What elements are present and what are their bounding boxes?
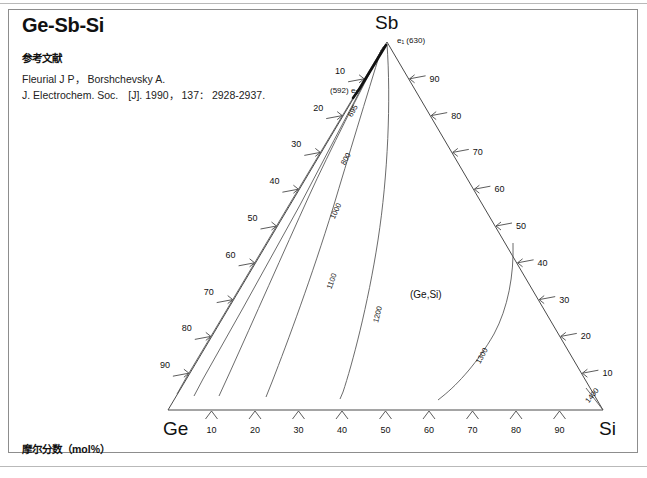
tick-marks <box>173 75 599 419</box>
tick-label-left: 10 <box>335 66 345 76</box>
boundary-curve-e1-e2 <box>353 45 386 98</box>
tick-label-bottom: 40 <box>337 425 347 435</box>
tick-mark-right <box>561 332 577 340</box>
tick-label-right: 20 <box>581 331 591 341</box>
tick-mark-left <box>195 332 211 340</box>
tick-mark-right <box>474 185 490 193</box>
tick-mark-left <box>239 259 255 267</box>
isotherm-1100 <box>266 50 381 397</box>
tick-label-left: 90 <box>160 360 170 370</box>
tick-mark-bottom <box>467 411 479 419</box>
tick-label-left: 60 <box>226 250 236 260</box>
edge-sb-si <box>387 42 603 410</box>
isotherm-label-1100: 1100 <box>325 272 339 290</box>
isotherm-800 <box>194 47 383 396</box>
tick-label-right: 30 <box>559 295 569 305</box>
tick-mark-right <box>496 222 512 230</box>
tick-label-left: 40 <box>269 176 279 186</box>
tick-mark-left <box>261 222 277 230</box>
isotherm-curves <box>177 44 603 410</box>
tick-mark-bottom <box>380 411 392 419</box>
tick-mark-right <box>582 369 598 377</box>
triangle-edges <box>168 42 603 410</box>
tick-label-left: 70 <box>204 287 214 297</box>
tick-label-bottom: 80 <box>511 425 521 435</box>
tick-mark-right <box>453 148 469 156</box>
tick-mark-bottom <box>249 411 261 419</box>
tick-mark-bottom <box>293 411 305 419</box>
tick-mark-bottom <box>554 411 566 419</box>
isotherm-label-1200: 1200 <box>371 305 384 323</box>
tick-label-right: 40 <box>538 258 548 268</box>
tick-mark-left <box>326 112 342 120</box>
tick-label-bottom: 50 <box>380 425 390 435</box>
isotherm-1300 <box>438 243 513 400</box>
tick-label-bottom: 10 <box>206 425 216 435</box>
tick-mark-left <box>348 75 364 83</box>
tick-label-left: 20 <box>313 103 323 113</box>
tick-label-left: 30 <box>291 139 301 149</box>
tick-label-left: 80 <box>182 323 192 333</box>
tick-label-right: 90 <box>430 74 440 84</box>
tick-mark-bottom <box>423 411 435 419</box>
tick-mark-bottom <box>206 411 218 419</box>
tick-mark-right <box>539 296 555 304</box>
tick-label-right: 50 <box>516 221 526 231</box>
tick-label-right: 60 <box>494 184 504 194</box>
tick-label-bottom: 30 <box>293 425 303 435</box>
tick-label-left: 50 <box>247 213 257 223</box>
isotherm-1200 <box>340 44 389 399</box>
ternary-plot: 1020304050607080909080706050403020109080… <box>0 0 647 478</box>
tick-label-bottom: 90 <box>554 425 564 435</box>
tick-mark-right <box>410 75 426 83</box>
tick-label-right: 80 <box>451 111 461 121</box>
tick-mark-right <box>518 259 534 267</box>
isotherm-label-1000: 1000 <box>328 202 343 221</box>
isotherm-label-800: 800 <box>339 151 353 166</box>
tick-label-bottom: 70 <box>467 425 477 435</box>
tick-mark-left <box>173 369 189 377</box>
isotherm-label-1300: 1300 <box>474 346 490 365</box>
tick-labels: 1020304050607080909080706050403020109080… <box>160 66 613 435</box>
isotherm-labels: 69580010001100120013001400 <box>325 103 601 405</box>
tick-label-right: 10 <box>602 368 612 378</box>
tick-mark-right <box>431 112 447 120</box>
tick-mark-left <box>217 296 233 304</box>
tick-label-right: 70 <box>473 147 483 157</box>
tick-mark-left <box>304 148 320 156</box>
isotherm-1000 <box>219 49 382 396</box>
tick-mark-left <box>282 185 298 193</box>
tick-label-bottom: 20 <box>250 425 260 435</box>
tick-mark-bottom <box>510 411 522 419</box>
diagram-page: Ge-Sb-Si 参考文献 Fleurial J P， Borshchevsky… <box>0 0 647 478</box>
tick-mark-bottom <box>336 411 348 419</box>
tick-label-bottom: 60 <box>424 425 434 435</box>
